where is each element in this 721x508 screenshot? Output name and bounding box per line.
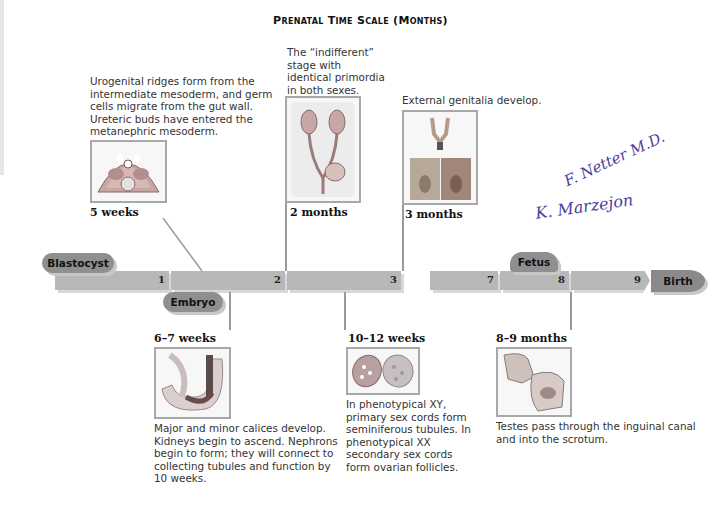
page-title: Prenatal Time Scale (Months) [0, 14, 721, 27]
month-number: 7 [487, 274, 494, 285]
stage-description-10-12-weeks: In phenotypical XY, primary sex cords fo… [346, 398, 476, 474]
month-number: 3 [390, 274, 397, 285]
stage-label-6-7-weeks: 6–7 weeks [154, 332, 216, 345]
stage-description-6-7-weeks: Major and minor calices develop. Kidneys… [154, 422, 339, 485]
connector-line-10-12-weeks [344, 292, 346, 330]
connector-line-6-7-weeks [229, 292, 231, 330]
month-number: 8 [558, 274, 565, 285]
image-kidney-calices [154, 347, 231, 419]
signature-netter: F. Netter M.D. [561, 128, 667, 190]
connector-line-5-weeks [160, 218, 210, 273]
descent-illustration-icon [498, 349, 570, 415]
month-number: 2 [274, 274, 281, 285]
stage-description-3-months: External genitalia develop. [402, 94, 602, 107]
month-number: 1 [158, 274, 165, 285]
timeline-segment-month-2: 2 [171, 271, 285, 290]
image-indifferent-gonads [285, 96, 361, 203]
stage-description-2-months: The “indifferent” stage with identical p… [287, 46, 387, 96]
stage-label-8-9-months: 8–9 months [496, 332, 567, 345]
stage-label-2-months: 2 months [290, 206, 348, 219]
connector-line-3-months [402, 205, 404, 271]
stage-label-5-weeks: 5 weeks [90, 206, 139, 219]
timeline-segment-month-1: 1 [55, 271, 169, 290]
signature-marzejon: K. Marzejon [534, 190, 634, 223]
stage-description-5-weeks: Urogenital ridges form from the intermed… [90, 75, 290, 138]
label-fetus: Fetus [510, 252, 558, 272]
stage-label-10-12-weeks: 10–12 weeks [348, 332, 425, 345]
kidney-illustration-icon [156, 349, 229, 417]
gonad-sections-icon [348, 349, 418, 393]
connector-line-2-months [285, 203, 287, 271]
genitalia-illustration-icon [404, 112, 476, 203]
stage-description-8-9-months: Testes pass through the inguinal canal a… [496, 420, 696, 445]
connector-line-8-9-months [570, 292, 572, 330]
image-external-genitalia [402, 110, 478, 205]
timeline-segment-month-8: 8 [500, 271, 569, 290]
timeline-segment-month-7: 7 [430, 271, 498, 290]
month-number: 9 [634, 274, 641, 285]
image-testicular-descent [496, 347, 572, 417]
label-embryo: Embryo [163, 292, 223, 312]
gonads-illustration-icon [287, 98, 359, 201]
embryo-cross-section-icon [92, 142, 165, 201]
stage-label-3-months: 3 months [405, 208, 463, 221]
label-birth: Birth [651, 270, 705, 292]
image-embryo-cross-section [90, 140, 167, 203]
timeline-segment-month-3: 3 [287, 271, 401, 290]
timeline-segment-month-9: 9 [571, 271, 651, 290]
label-blastocyst: Blastocyst [42, 253, 114, 273]
image-testis-ovary [346, 347, 420, 395]
